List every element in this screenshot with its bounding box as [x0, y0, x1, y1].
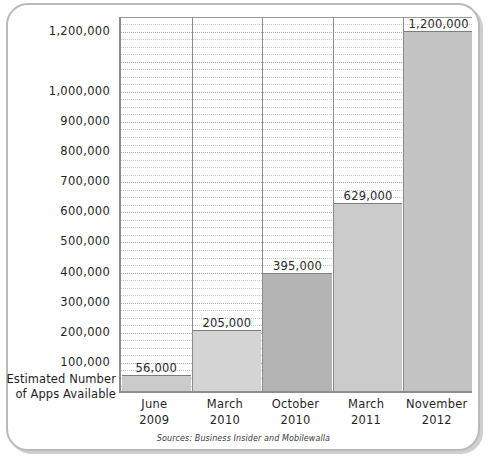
- bar[interactable]: [122, 375, 191, 392]
- column-separator: [333, 18, 334, 392]
- chart-page: 100,000200,000300,000400,000500,000600,0…: [0, 0, 487, 457]
- x-axis-category-year: 2010: [190, 412, 261, 428]
- x-axis-category-label: March2010: [190, 396, 261, 428]
- y-axis-tick-label: 1,200,000: [49, 24, 110, 38]
- y-axis-title: Estimated Number of Apps Available: [4, 372, 116, 402]
- x-axis-category-month: March: [331, 396, 402, 412]
- y-axis-tick-label: 200,000: [60, 325, 110, 339]
- x-axis-category-month: June: [119, 396, 190, 412]
- y-axis-tick-label: 400,000: [60, 265, 110, 279]
- column-separator: [192, 18, 193, 392]
- plot-area: 56,000205,000395,000629,0001,200,000: [119, 17, 472, 392]
- y-axis-tick-label: 100,000: [60, 355, 110, 369]
- x-axis-category-year: 2009: [119, 412, 190, 428]
- y-axis-tick-label: 500,000: [60, 234, 110, 248]
- bar-series: 56,000205,000395,000629,0001,200,000: [121, 18, 472, 392]
- bar[interactable]: [404, 31, 472, 392]
- bar-value-label: 395,000: [262, 259, 333, 273]
- bar-value-label: 56,000: [121, 361, 192, 375]
- bar-chart: 100,000200,000300,000400,000500,000600,0…: [0, 0, 487, 457]
- x-axis-category-month: November: [401, 396, 472, 412]
- x-axis-category-year: 2010: [260, 412, 331, 428]
- bar[interactable]: [334, 203, 403, 393]
- y-axis-tick-label: 600,000: [60, 204, 110, 218]
- bar-value-label: 629,000: [333, 189, 404, 203]
- x-axis-category-month: October: [260, 396, 331, 412]
- bar-value-label: 205,000: [192, 316, 263, 330]
- x-axis-category-month: March: [190, 396, 261, 412]
- y-axis-tick-label: 1,000,000: [49, 84, 110, 98]
- y-axis-tick-label: 700,000: [60, 174, 110, 188]
- bar[interactable]: [193, 330, 262, 392]
- y-axis-title-line-2: of Apps Available: [4, 387, 116, 402]
- x-axis-category-label: June2009: [119, 396, 190, 428]
- source-note: Sources: Business Insider and Mobilewall…: [0, 434, 487, 443]
- y-axis-tick-label: 900,000: [60, 114, 110, 128]
- x-axis-category-year: 2011: [331, 412, 402, 428]
- bar-value-label: 1,200,000: [403, 17, 472, 31]
- x-axis-category-label: November2012: [401, 396, 472, 428]
- y-axis-tick-label: 300,000: [60, 295, 110, 309]
- x-axis-category-labels: June2009March2010October2010March2011Nov…: [119, 396, 472, 436]
- y-axis-title-line-1: Estimated Number: [4, 372, 116, 387]
- bar[interactable]: [263, 273, 332, 392]
- x-axis-category-label: October2010: [260, 396, 331, 428]
- x-axis-line: [119, 391, 472, 393]
- y-axis-tick-label: 800,000: [60, 144, 110, 158]
- x-axis-category-year: 2012: [401, 412, 472, 428]
- x-axis-category-label: March2011: [331, 396, 402, 428]
- column-separator: [403, 18, 404, 392]
- column-separator: [262, 18, 263, 392]
